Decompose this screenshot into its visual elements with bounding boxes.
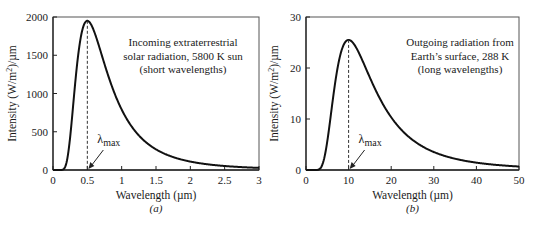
y-tick-label: 1000	[26, 88, 49, 100]
annotation-text: Earth’s surface, 288 K	[411, 50, 509, 62]
y-axis-label: Intensity (W/m2)/µm	[267, 45, 281, 142]
y-tick-label: 30	[290, 11, 302, 23]
y-tick-label: 10	[290, 113, 302, 125]
y-tick-label: 1500	[26, 49, 49, 61]
x-tick-label: 0	[50, 174, 56, 186]
x-tick-label: 0	[303, 174, 309, 186]
x-tick-label: 1.5	[149, 174, 163, 186]
x-tick-label: 1	[119, 174, 125, 186]
x-tick-label: 50	[514, 174, 526, 186]
y-tick-label: 0	[43, 164, 49, 176]
annotation-text: Outgoing radiation from	[406, 36, 514, 48]
y-axis-label: Intensity (W/m2)/µm	[5, 45, 19, 142]
y-tick-label: 20	[290, 62, 302, 74]
panel-label: (a)	[150, 202, 163, 215]
x-tick-label: 3	[256, 174, 262, 186]
panel-label: (b)	[406, 202, 419, 215]
y-tick-label: 500	[32, 126, 49, 138]
lambda-max-label: λmax	[97, 132, 120, 148]
y-tick-label: 2000	[26, 11, 49, 23]
x-tick-label: 0.5	[80, 174, 94, 186]
x-tick-label: 20	[386, 174, 398, 186]
annotation-text: Incoming extraterrestrial	[128, 36, 237, 48]
annotation-text: (short wavelengths)	[139, 63, 226, 76]
x-tick-label: 2.5	[218, 174, 232, 186]
blackbody-spectra-chart: 00.511.522.530500100015002000Wavelength …	[0, 0, 537, 229]
annotation-text: solar radiation, 5800 K sun	[123, 50, 243, 62]
x-axis-label: Wavelength (µm)	[372, 189, 453, 202]
annotation-text: (long wavelengths)	[418, 63, 503, 76]
x-axis-label: Wavelength (µm)	[116, 189, 197, 202]
lambda-max-label: λmax	[359, 132, 382, 148]
x-tick-label: 40	[471, 174, 483, 186]
y-tick-label: 0	[296, 164, 302, 176]
x-tick-label: 30	[428, 174, 440, 186]
x-tick-label: 2	[188, 174, 194, 186]
chart-panel-b: 010203040500102030Wavelength (µm)Intensi…	[267, 11, 525, 215]
x-tick-label: 10	[343, 174, 355, 186]
chart-panel-a: 00.511.522.530500100015002000Wavelength …	[5, 11, 262, 215]
figure: 00.511.522.530500100015002000Wavelength …	[0, 0, 537, 229]
